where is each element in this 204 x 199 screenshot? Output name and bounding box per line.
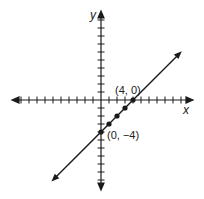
- data-point: [98, 129, 103, 134]
- axes: [12, 11, 193, 190]
- x-intercept-label: (4, 0): [115, 85, 141, 96]
- y-intercept-label: (0, −4): [107, 130, 139, 141]
- x-axis-label: x: [183, 104, 189, 116]
- coordinate-plane: [0, 0, 204, 199]
- x-axis-left-arrow-icon: [12, 97, 19, 103]
- data-point: [122, 105, 127, 110]
- y-axis-up-arrow-icon: [98, 11, 104, 18]
- data-point: [130, 97, 135, 102]
- y-axis-label: y: [90, 9, 96, 21]
- data-point: [106, 121, 111, 126]
- y-axis-down-arrow-icon: [98, 183, 104, 190]
- data-point: [114, 113, 119, 118]
